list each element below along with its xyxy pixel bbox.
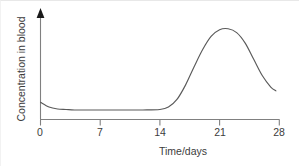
y-axis-label: Concentration in blood (15, 12, 27, 126)
x-tick-label-28: 28 (265, 126, 293, 138)
x-tick-label-21: 21 (206, 126, 234, 138)
chart-figure: 0 7 14 21 28 Time/days Concentration in … (0, 0, 299, 166)
x-tick-label-7: 7 (86, 126, 114, 138)
chart-plot-area (1, 1, 299, 166)
concentration-curve (41, 29, 276, 110)
x-tick-label-0: 0 (26, 126, 54, 138)
x-tick-label-14: 14 (146, 126, 174, 138)
y-axis-arrow-icon (37, 8, 45, 18)
x-axis-label: Time/days (128, 145, 238, 157)
